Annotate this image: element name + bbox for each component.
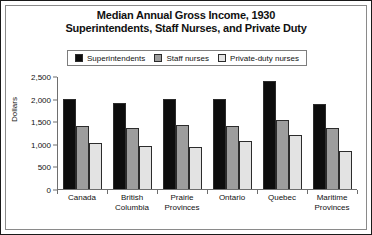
x-axis-label-line: British — [107, 193, 157, 203]
bar-group — [257, 77, 307, 189]
bar-group — [158, 77, 208, 189]
bar[interactable] — [139, 146, 152, 189]
bar[interactable] — [313, 104, 326, 189]
x-axis-label: BritishColumbia — [107, 193, 157, 213]
legend-entry[interactable]: Superintendents — [75, 54, 145, 63]
bar[interactable] — [226, 126, 239, 189]
chart-subtitle: Superintendents, Staff Nurses, and Priva… — [1, 22, 371, 35]
bar[interactable] — [176, 125, 189, 189]
x-axis-label-line: Quebec — [257, 193, 307, 203]
bar[interactable] — [89, 143, 102, 189]
bar[interactable] — [113, 103, 126, 189]
legend-label: Staff nurses — [166, 54, 209, 63]
x-axis-label-line: Maritime — [307, 193, 357, 203]
x-axis-label: Ontario — [207, 193, 257, 213]
legend-swatch-icon — [75, 54, 83, 62]
bar[interactable] — [339, 151, 352, 189]
x-axis-label: Quebec — [257, 193, 307, 213]
bar[interactable] — [326, 128, 339, 189]
y-tick-label: 0 — [47, 186, 51, 195]
bar[interactable] — [239, 141, 252, 189]
legend-entry[interactable]: Staff nurses — [154, 54, 209, 63]
x-axis-label-line: Provinces — [307, 203, 357, 213]
bar[interactable] — [263, 81, 276, 189]
chart-legend: SuperintendentsStaff nursesPrivate-duty … — [67, 50, 307, 66]
legend-swatch-icon — [218, 54, 226, 62]
bar[interactable] — [163, 99, 176, 189]
bar[interactable] — [289, 135, 302, 189]
y-axis-ticks: 05001,0001,5002,0002,500 — [1, 77, 57, 190]
y-tick-label: 500 — [38, 163, 51, 172]
bar[interactable] — [213, 99, 226, 189]
x-axis-label-line: Provinces — [157, 203, 207, 213]
x-axis-label-line: Prairie — [157, 193, 207, 203]
x-axis-label: PrairieProvinces — [157, 193, 207, 213]
y-tick-label: 2,500 — [31, 73, 51, 82]
y-tick-label: 1,500 — [31, 118, 51, 127]
x-axis-label: Canada — [57, 193, 107, 213]
bar-group — [58, 77, 108, 189]
legend-swatch-icon — [154, 54, 162, 62]
bar[interactable] — [189, 147, 202, 189]
legend-label: Superintendents — [87, 54, 145, 63]
bars-layer — [58, 77, 357, 189]
y-tick-label: 1,000 — [31, 140, 51, 149]
bar-group — [307, 77, 357, 189]
x-axis-label-line: Columbia — [107, 203, 157, 213]
chart-title: Median Annual Gross Income, 1930 — [1, 9, 371, 22]
chart-title-block: Median Annual Gross Income, 1930 Superin… — [1, 9, 371, 35]
legend-entry[interactable]: Private-duty nurses — [218, 54, 299, 63]
x-axis-labels: CanadaBritishColumbiaPrairieProvincesOnt… — [57, 193, 357, 213]
bar-group — [207, 77, 257, 189]
bar[interactable] — [63, 99, 76, 189]
legend-label: Private-duty nurses — [230, 54, 299, 63]
x-tick-mark — [357, 190, 358, 194]
x-axis-label-line: Canada — [57, 193, 107, 203]
bar[interactable] — [276, 120, 289, 189]
plot-area — [57, 77, 357, 190]
x-axis-label: MaritimeProvinces — [307, 193, 357, 213]
bar-group — [108, 77, 158, 189]
chart-figure: Median Annual Gross Income, 1930 Superin… — [0, 0, 372, 235]
bar[interactable] — [126, 128, 139, 189]
y-tick-label: 2,000 — [31, 95, 51, 104]
bar[interactable] — [76, 126, 89, 189]
x-axis-label-line: Ontario — [207, 193, 257, 203]
